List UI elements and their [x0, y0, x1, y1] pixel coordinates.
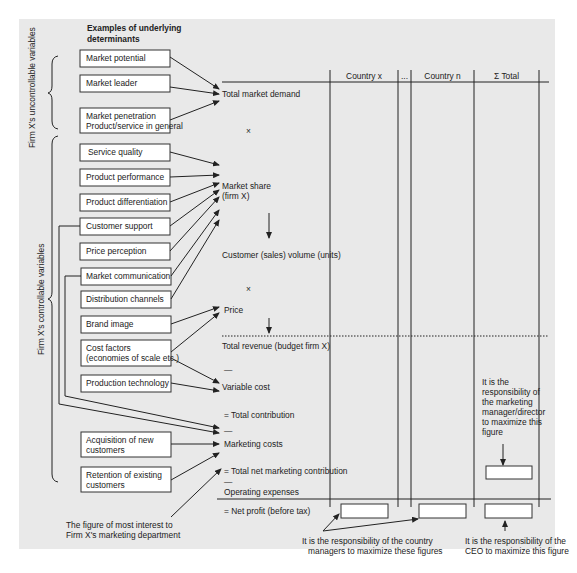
determinant-market-leader: Market leader [80, 75, 170, 92]
multiply-sign-1: × [246, 126, 251, 136]
svg-text:responsibility of: responsibility of [482, 387, 540, 397]
marketing-contribution-diagram: Examples of underlying determinants Firm… [0, 0, 577, 573]
svg-text:Retention of existing: Retention of existing [86, 470, 162, 480]
svg-text:managers to maximize these fig: managers to maximize these figures [308, 546, 443, 556]
determinant-market-penetration: Market penetration Product/service in ge… [80, 108, 183, 133]
svg-text:Price perception: Price perception [86, 246, 147, 256]
svg-text:Acquisition of new: Acquisition of new [86, 435, 154, 445]
svg-text:customers: customers [86, 480, 125, 490]
svg-text:Firm X's marketing department: Firm X's marketing department [66, 530, 181, 540]
net-profit-box-country-x [341, 504, 388, 518]
multiply-sign-2: × [246, 284, 251, 294]
svg-text:manager/director: manager/director [482, 407, 546, 417]
country-managers-annotation: It is the responsibility of the country … [302, 514, 443, 556]
svg-text:customers: customers [86, 445, 125, 455]
column-header-total: Σ Total [494, 71, 519, 81]
price-label: Price [224, 305, 243, 315]
svg-text:Market penetration: Market penetration [86, 111, 156, 121]
minus-sign-2: — [224, 426, 233, 436]
determinant-product-performance: Product performance [80, 169, 170, 186]
determinant-service-quality: Service quality [80, 144, 170, 161]
determinant-acquisition-new-customers: Acquisition of new customers [81, 432, 171, 457]
customer-volume-label: Customer (sales) volume (units) [222, 250, 341, 260]
svg-text:It is the: It is the [482, 377, 509, 387]
svg-text:Service quality: Service quality [88, 147, 143, 157]
controllable-variables-label: Firm X's controllable variables [36, 244, 46, 355]
arrows-to-market-demand [170, 57, 219, 120]
net-profit-label: = Net profit (before tax) [224, 506, 311, 516]
net-profit-box-country-n [419, 504, 466, 518]
determinant-product-differentiation: Product differentiation [80, 194, 170, 211]
variable-cost-label: Variable cost [222, 382, 270, 392]
total-net-marketing-contribution-label: = Total net marketing contribution [224, 466, 348, 476]
svg-text:the marketing: the marketing [482, 397, 533, 407]
total-market-demand-label: Total market demand [222, 89, 301, 99]
determinant-brand-image: Brand image [81, 316, 171, 333]
svg-text:to maximize this: to maximize this [482, 417, 542, 427]
market-share-label-line2: (firm X) [222, 191, 250, 201]
arrows-to-price [171, 307, 219, 352]
determinant-price-perception: Price perception [80, 243, 170, 260]
svg-text:Brand image: Brand image [86, 319, 134, 329]
svg-text:Market potential: Market potential [86, 53, 146, 63]
determinant-retention-existing-customers: Retention of existing customers [81, 467, 171, 492]
total-net-marketing-contribution-box [486, 466, 532, 479]
market-share-label-line1: Market share [222, 181, 271, 191]
svg-text:It is the responsibility of th: It is the responsibility of the [465, 536, 566, 546]
minus-sign-3: — [224, 477, 233, 487]
svg-text:Product performance: Product performance [86, 172, 165, 182]
determinant-market-potential: Market potential [80, 50, 170, 67]
determinant-customer-support: Customer support [80, 218, 170, 235]
determinant-cost-factors: Cost factors (economies of scale etc.) [81, 340, 179, 366]
operating-expenses-label: Operating expenses [224, 487, 299, 497]
svg-text:Product/service in general: Product/service in general [86, 121, 183, 131]
marketing-costs-label: Marketing costs [224, 439, 283, 449]
svg-text:Customer support: Customer support [86, 221, 153, 231]
svg-text:figure: figure [482, 427, 503, 437]
determinant-production-technology: Production technology [81, 375, 171, 392]
svg-text:Cost factors: Cost factors [86, 343, 131, 353]
column-header-ellipsis: ... [401, 71, 408, 81]
uncontrollable-variables-label: Firm X's uncontrollable variables [27, 27, 37, 148]
determinants-title-line2: determinants [87, 34, 140, 44]
svg-text:Distribution channels: Distribution channels [86, 294, 164, 304]
svg-text:CEO to maximize this figure: CEO to maximize this figure [465, 546, 569, 556]
svg-text:Market leader: Market leader [86, 78, 137, 88]
arrows-to-market-share [170, 152, 219, 299]
net-profit-box-total [485, 504, 532, 518]
controllable-brace [48, 136, 58, 482]
column-header-country-x: Country x [346, 71, 383, 81]
determinant-distribution-channels: Distribution channels [81, 291, 171, 308]
total-revenue-label: Total revenue (budget firm X) [222, 341, 330, 351]
determinants-title-line1: Examples of underlying [87, 23, 181, 33]
ceo-annotation: It is the responsibility of the CEO to m… [465, 521, 569, 556]
minus-sign-1: — [224, 365, 233, 375]
svg-text:The figure of most interest to: The figure of most interest to [66, 520, 173, 530]
svg-text:Product differentiation: Product differentiation [86, 197, 168, 207]
svg-text:It is the responsibility of th: It is the responsibility of the country [302, 536, 434, 546]
determinant-market-communication: Market communication [81, 268, 171, 285]
svg-text:(economies of scale etc.): (economies of scale etc.) [86, 353, 179, 363]
column-header-country-n: Country n [424, 71, 461, 81]
total-contribution-label: = Total contribution [224, 410, 295, 420]
svg-text:Market communication: Market communication [86, 271, 171, 281]
uncontrollable-brace [48, 56, 58, 129]
marketing-manager-annotation: It is the responsibility of the marketin… [482, 377, 546, 465]
svg-text:Production technology: Production technology [86, 378, 170, 388]
